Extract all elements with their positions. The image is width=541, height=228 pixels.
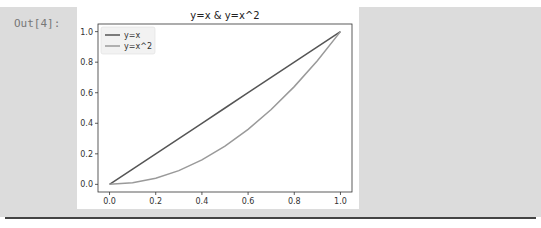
series-line-0 — [110, 32, 341, 185]
y-tick-label: 0.0 — [80, 180, 93, 189]
x-tick-label: 0.0 — [103, 197, 116, 206]
y-tick-label: 0.2 — [80, 150, 93, 159]
y-tick-label: 0.4 — [80, 119, 93, 128]
y-tick-label: 0.6 — [80, 89, 93, 98]
chart-title: y=x & y=x^2 — [190, 10, 259, 21]
x-tick-label: 0.4 — [196, 197, 209, 206]
chart-figure: y=x & y=x^2 0.00.20.40.60.81.00.00.20.40… — [77, 7, 359, 209]
output-prompt: Out[4]: — [14, 17, 60, 30]
x-tick-label: 0.6 — [242, 197, 255, 206]
x-tick-label: 1.0 — [334, 197, 347, 206]
y-tick-label: 0.8 — [80, 58, 93, 67]
legend: y=xy=x^2 — [101, 27, 155, 54]
legend-label-1: y=x^2 — [124, 42, 152, 51]
cell-divider — [5, 217, 536, 219]
x-tick-label: 0.2 — [149, 197, 162, 206]
legend-label-0: y=x — [124, 31, 140, 40]
x-tick-label: 0.8 — [288, 197, 301, 206]
y-tick-label: 1.0 — [80, 28, 93, 37]
chart-svg: y=x & y=x^2 0.00.20.40.60.81.00.00.20.40… — [77, 7, 359, 209]
series-layer — [110, 32, 341, 185]
